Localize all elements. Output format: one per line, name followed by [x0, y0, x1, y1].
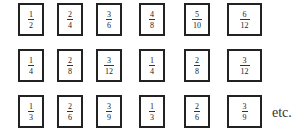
denominator: 4: [67, 21, 73, 30]
denominator: 4: [28, 67, 34, 76]
fraction-card: 12: [18, 3, 44, 36]
numerator: 2: [194, 102, 200, 111]
denominator: 6: [106, 21, 112, 30]
denominator: 12: [240, 21, 250, 30]
fraction-card: 13: [18, 95, 44, 128]
denominator: 6: [67, 113, 73, 122]
numerator: 3: [106, 10, 112, 19]
denominator: 9: [106, 113, 112, 122]
numerator: 6: [242, 10, 248, 19]
fraction-card: 26: [57, 95, 83, 128]
denominator: 10: [192, 21, 202, 30]
numerator: 1: [149, 102, 155, 111]
denominator: 8: [194, 67, 200, 76]
fraction-card: 13: [139, 95, 165, 128]
numerator: 1: [28, 56, 34, 65]
fraction-card: 26: [184, 95, 210, 128]
denominator: 8: [149, 21, 155, 30]
numerator: 3: [242, 56, 248, 65]
numerator: 1: [28, 10, 34, 19]
numerator: 4: [149, 10, 155, 19]
fraction-row-3: 13 26 39 13 26 39 etc.: [0, 95, 306, 129]
fraction-card: 312: [96, 49, 122, 82]
denominator: 8: [67, 67, 73, 76]
numerator: 5: [194, 10, 200, 19]
denominator: 3: [149, 113, 155, 122]
numerator: 3: [242, 102, 248, 111]
numerator: 3: [106, 102, 112, 111]
fraction-card: 24: [57, 3, 83, 36]
numerator: 2: [67, 10, 73, 19]
denominator: 9: [242, 113, 248, 122]
fraction-card: 510: [184, 3, 210, 36]
numerator: 2: [194, 56, 200, 65]
denominator: 6: [194, 113, 200, 122]
denominator: 12: [240, 67, 250, 76]
fraction-card: 28: [57, 49, 83, 82]
fraction-card: 36: [96, 3, 122, 36]
fraction-row-2: 14 28 312 14 28 312: [0, 49, 306, 83]
fraction-card-grid: 12 24 36 48 510 612 14 28 312 14: [0, 0, 306, 133]
denominator: 2: [28, 21, 34, 30]
numerator: 1: [149, 56, 155, 65]
fraction-card: 39: [227, 95, 262, 128]
etc-label: etc.: [272, 105, 292, 121]
numerator: 2: [67, 56, 73, 65]
numerator: 2: [67, 102, 73, 111]
fraction-card: 14: [18, 49, 44, 82]
fraction-card: 612: [227, 3, 262, 36]
fraction-card: 48: [139, 3, 165, 36]
fraction-card: 28: [184, 49, 210, 82]
fraction-row-1: 12 24 36 48 510 612: [0, 3, 306, 37]
denominator: 12: [104, 67, 114, 76]
numerator: 1: [28, 102, 34, 111]
denominator: 4: [149, 67, 155, 76]
denominator: 3: [28, 113, 34, 122]
fraction-card: 39: [96, 95, 122, 128]
fraction-card: 14: [139, 49, 165, 82]
numerator: 3: [106, 56, 112, 65]
fraction-card: 312: [227, 49, 262, 82]
